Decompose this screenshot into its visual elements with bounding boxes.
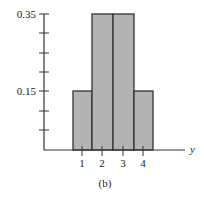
y-tick-label-0.15: 0.15 — [17, 85, 37, 97]
y-axis: 0.35 0.15 — [17, 8, 49, 150]
bar-2 — [92, 14, 113, 150]
bars — [73, 14, 153, 150]
x-tick-label-4: 4 — [140, 157, 146, 169]
figure-caption: (b) — [99, 177, 112, 190]
bar-4 — [134, 91, 153, 150]
histogram-chart: 0.35 0.15 1 2 3 4 y (b) — [0, 0, 204, 202]
y-tick-label-0.35: 0.35 — [17, 8, 37, 20]
x-tick-label-1: 1 — [79, 157, 85, 169]
x-tick-label-3: 3 — [120, 157, 126, 169]
x-axis-label: y — [189, 143, 195, 155]
bar-1 — [73, 91, 92, 150]
x-tick-label-2: 2 — [99, 157, 105, 169]
bar-3 — [113, 14, 134, 150]
